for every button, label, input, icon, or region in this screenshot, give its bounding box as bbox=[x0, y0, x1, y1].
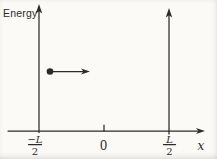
left-boundary-numerator: −L bbox=[27, 134, 42, 145]
origin-label: 0 bbox=[100, 139, 108, 153]
particle-in-box-diagram: Energy −L 2 0 bbox=[0, 0, 217, 159]
energy-axis-label: Energy bbox=[3, 7, 38, 19]
right-boundary-denominator: 2 bbox=[166, 146, 172, 157]
particle-dot bbox=[47, 68, 54, 75]
x-axis-label: x bbox=[198, 139, 205, 153]
right-potential-wall bbox=[166, 8, 172, 134]
left-boundary-label: −L 2 bbox=[27, 134, 42, 157]
left-boundary-denominator: 2 bbox=[32, 146, 38, 157]
particle-with-velocity bbox=[47, 68, 90, 75]
right-boundary-numerator: L bbox=[165, 134, 173, 145]
particle-in-box-figure: Energy −L 2 0 bbox=[0, 0, 217, 159]
right-boundary-label: L 2 bbox=[164, 134, 176, 157]
left-potential-wall bbox=[36, 4, 42, 133]
